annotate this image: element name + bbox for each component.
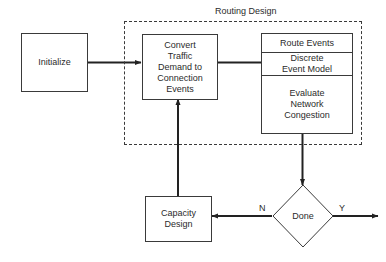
- edge-label-yes: Y: [339, 203, 345, 213]
- node-convert-traffic-demand[interactable]: Convert Traffic Demand to Connection Eve…: [142, 34, 218, 100]
- node-capacity-design-label: Capacity Design: [159, 208, 198, 230]
- node-initialize-label: Initialize: [36, 57, 73, 68]
- node-initialize[interactable]: Initialize: [21, 33, 88, 92]
- node-convert-traffic-demand-label: Convert Traffic Demand to Connection Eve…: [155, 40, 205, 95]
- node-simulation-stack: Route Events Discrete Event Model Evalua…: [261, 33, 353, 134]
- node-evaluate-network-congestion[interactable]: Evaluate Network Congestion: [262, 75, 352, 133]
- node-capacity-design[interactable]: Capacity Design: [145, 196, 212, 242]
- node-done-label: Done: [272, 184, 334, 248]
- edge-label-no: N: [259, 203, 266, 213]
- node-route-events[interactable]: Route Events: [262, 34, 352, 52]
- routing-design-group-label: Routing Design: [213, 6, 279, 17]
- node-discrete-event-model[interactable]: Discrete Event Model: [262, 52, 352, 75]
- node-done-decision[interactable]: Done: [272, 184, 334, 248]
- flowchart-diagram: Routing Design Initialize Convert Traffi…: [0, 0, 386, 262]
